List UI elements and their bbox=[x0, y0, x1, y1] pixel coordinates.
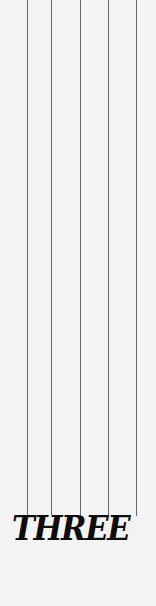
string-line bbox=[27, 0, 28, 518]
string-line bbox=[80, 0, 81, 518]
string-line bbox=[136, 0, 137, 516]
page-title: THREE bbox=[12, 509, 129, 549]
string-line bbox=[108, 0, 109, 516]
string-line bbox=[51, 0, 52, 515]
